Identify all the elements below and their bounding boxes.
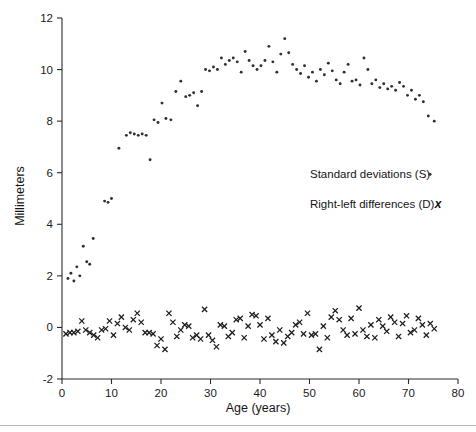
y-axis-title: Millimeters (13, 166, 27, 226)
data-point-standard-deviation (307, 76, 310, 79)
data-point-standard-deviation (125, 134, 128, 137)
data-point-standard-deviation (323, 73, 326, 76)
x-axis-title: Age (years) (226, 401, 291, 415)
data-point-right-left-difference (345, 333, 350, 338)
data-point-right-left-difference (111, 333, 116, 338)
data-point-right-left-difference (348, 316, 353, 321)
data-point-standard-deviation (315, 80, 318, 83)
data-point-standard-deviation (398, 81, 401, 84)
data-point-right-left-difference (107, 318, 112, 323)
data-point-right-left-difference (257, 322, 262, 327)
data-point-standard-deviation (311, 71, 314, 74)
data-point-right-left-difference (79, 318, 84, 323)
data-point-standard-deviation (165, 117, 168, 120)
data-point-standard-deviation (82, 245, 85, 248)
data-point-standard-deviation (228, 59, 231, 62)
data-point-right-left-difference (428, 321, 433, 326)
data-point-right-left-difference (242, 335, 247, 340)
data-point-right-left-difference (119, 315, 124, 320)
data-point-right-left-difference (210, 338, 215, 343)
series-right-left-differences-points (63, 305, 436, 351)
data-point-standard-deviation (319, 68, 322, 71)
data-point-right-left-difference (333, 308, 338, 313)
footer-divider (0, 425, 476, 426)
data-point-standard-deviation (287, 51, 290, 54)
data-point-right-left-difference (115, 321, 120, 326)
data-point-right-left-difference (368, 322, 373, 327)
data-point-standard-deviation (390, 85, 393, 88)
data-point-right-left-difference (301, 331, 306, 336)
data-point-right-left-difference (360, 327, 365, 332)
data-point-standard-deviation (256, 68, 259, 71)
data-point-standard-deviation (299, 72, 302, 75)
data-point-standard-deviation (200, 90, 203, 93)
data-point-standard-deviation (196, 104, 199, 107)
data-point-right-left-difference (230, 330, 235, 335)
y-axis-tick-label: -2 (43, 373, 53, 385)
data-point-standard-deviation (279, 53, 282, 56)
x-axis-tick-label: 10 (105, 387, 118, 399)
data-point-right-left-difference (432, 326, 437, 331)
data-point-standard-deviation (72, 280, 75, 283)
data-point-standard-deviation (141, 133, 144, 136)
data-point-right-left-difference (420, 322, 425, 327)
data-point-right-left-difference (206, 333, 211, 338)
data-point-standard-deviation (359, 84, 362, 87)
data-point-right-left-difference (273, 339, 278, 344)
data-point-right-left-difference (356, 305, 361, 310)
y-axis-tick-label: 2 (47, 270, 53, 282)
legend-marker-dot-icon (429, 173, 432, 176)
data-point-standard-deviation (157, 121, 160, 124)
data-point-standard-deviation (406, 94, 409, 97)
data-point-standard-deviation (295, 68, 298, 71)
data-point-right-left-difference (281, 340, 286, 345)
data-point-standard-deviation (236, 60, 239, 63)
data-point-standard-deviation (133, 133, 136, 136)
data-point-right-left-difference (341, 327, 346, 332)
legend-item-standard-deviations-label: Standard deviations (S) (310, 168, 430, 180)
data-point-right-left-difference (261, 336, 266, 341)
data-point-right-left-difference (166, 311, 171, 316)
x-axis-tick-label: 20 (155, 387, 168, 399)
data-point-standard-deviation (240, 71, 243, 74)
y-axis-tick-label: 4 (47, 218, 54, 230)
x-axis-tick-label: 60 (353, 387, 366, 399)
x-axis-tick-label: 0 (59, 387, 65, 399)
data-point-right-left-difference (162, 347, 167, 352)
data-point-standard-deviation (232, 57, 235, 60)
data-point-standard-deviation (264, 59, 267, 62)
data-point-standard-deviation (303, 64, 306, 67)
data-point-standard-deviation (75, 265, 78, 268)
data-point-standard-deviation (422, 100, 425, 103)
data-point-standard-deviation (374, 78, 377, 81)
data-point-standard-deviation (433, 120, 436, 123)
data-point-right-left-difference (337, 317, 342, 322)
data-point-standard-deviation (216, 68, 219, 71)
data-point-standard-deviation (351, 80, 354, 83)
scatter-plot-figure: -202468101201020304050607080 Millimeters… (0, 0, 476, 432)
data-point-right-left-difference (325, 335, 330, 340)
data-point-standard-deviation (169, 118, 172, 121)
data-point-standard-deviation (386, 87, 389, 90)
data-point-standard-deviation (283, 37, 286, 40)
x-axis-tick-label: 40 (254, 387, 267, 399)
data-point-right-left-difference (329, 315, 334, 320)
data-point-standard-deviation (378, 86, 381, 89)
data-point-right-left-difference (352, 331, 357, 336)
data-point-right-left-difference (214, 344, 219, 349)
data-point-right-left-difference (135, 311, 140, 316)
legend-marker-x-icon: x (434, 197, 443, 211)
data-point-right-left-difference (170, 320, 175, 325)
data-point-standard-deviation (418, 94, 421, 97)
data-point-standard-deviation (85, 260, 88, 263)
data-point-standard-deviation (220, 57, 223, 60)
data-point-standard-deviation (427, 115, 430, 118)
y-axis-tick-label: 10 (40, 64, 53, 76)
data-point-right-left-difference (305, 311, 310, 316)
data-point-right-left-difference (174, 334, 179, 339)
data-point-right-left-difference (289, 330, 294, 335)
data-point-standard-deviation (343, 71, 346, 74)
data-point-right-left-difference (380, 324, 385, 329)
data-point-standard-deviation (204, 68, 207, 71)
data-point-standard-deviation (149, 158, 152, 161)
